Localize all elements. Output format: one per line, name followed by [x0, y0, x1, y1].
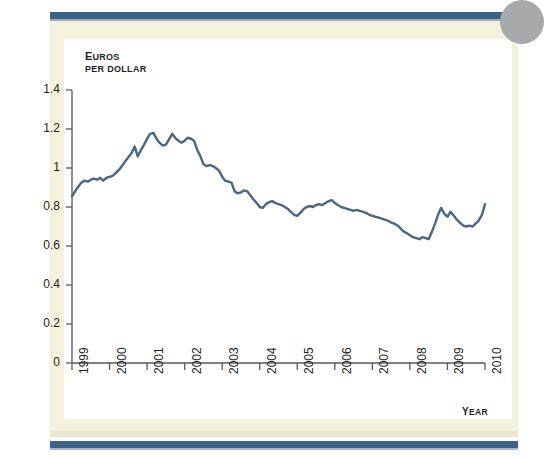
axis-group — [66, 90, 485, 370]
series-group — [72, 133, 485, 239]
x-tick-label: 2005 — [302, 347, 316, 374]
y-tick-label: 1.4 — [30, 82, 60, 96]
y-tick-label: 1.2 — [30, 121, 60, 135]
bottom-rule — [50, 441, 518, 448]
x-tick-label: 2009 — [452, 347, 466, 374]
data-line-1 — [72, 133, 485, 239]
y-tick-label: 0.6 — [30, 238, 60, 252]
x-tick-label: 2006 — [340, 347, 354, 374]
x-tick-label: 2007 — [377, 347, 391, 374]
x-tick-label: 2003 — [227, 347, 241, 374]
x-tick-label: 2001 — [152, 347, 166, 374]
y-tick-label: 0.4 — [30, 277, 60, 291]
y-tick-label: 1 — [30, 160, 60, 174]
x-tick-label: 2002 — [190, 347, 204, 374]
x-tick-label: 2000 — [115, 347, 129, 374]
x-tick-label: 2004 — [265, 347, 279, 374]
x-tick-label: 2008 — [415, 347, 429, 374]
x-tick-label: 1999 — [77, 347, 91, 374]
y-tick-label: 0.8 — [30, 199, 60, 213]
y-tick-label: 0.2 — [30, 316, 60, 330]
y-tick-label: 0 — [30, 355, 60, 369]
bottom-rule-shadow — [50, 448, 518, 450]
x-tick-label: 2010 — [490, 347, 504, 374]
